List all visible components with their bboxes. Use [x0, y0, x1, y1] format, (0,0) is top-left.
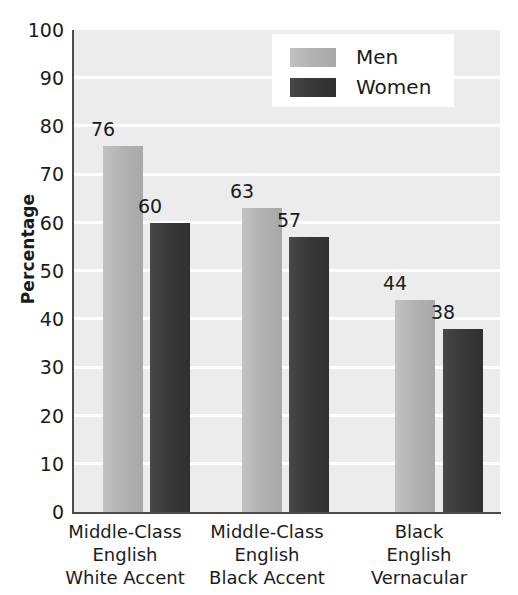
x-tick-label-group1: Middle-Class English White Accent: [50, 520, 200, 589]
bar-chart: Percentage 100 90 80 70 60 50 40 30 20 1…: [0, 0, 518, 595]
value-label-men-group3: 44: [375, 274, 415, 293]
value-label-women-group3: 38: [423, 303, 463, 322]
value-label-women-group2: 57: [269, 211, 309, 230]
y-tick-label-30: 30: [0, 358, 64, 377]
x-tick-label-group3: Black English Vernacular: [344, 520, 494, 589]
x-tick-label-group2: Middle-Class English Black Accent: [192, 520, 342, 589]
bar-women-group3: [443, 329, 483, 512]
y-tick-label-20: 20: [0, 407, 64, 426]
y-tick-label-70: 70: [0, 165, 64, 184]
bar-women-group1: [150, 223, 190, 512]
y-tick-label-50: 50: [0, 262, 64, 281]
legend-item-women: Women: [290, 73, 454, 101]
bar-men-group3: [395, 300, 435, 512]
legend-label-men: Men: [356, 47, 398, 67]
value-label-men-group2: 63: [222, 182, 262, 201]
legend-swatch-men-icon: [290, 48, 336, 67]
legend-item-men: Men: [290, 43, 454, 71]
y-tick-label-60: 60: [0, 214, 64, 233]
value-label-men-group1: 76: [83, 120, 123, 139]
y-tick-label-100: 100: [0, 21, 64, 40]
bar-women-group2: [289, 237, 329, 512]
legend-swatch-women-icon: [290, 78, 336, 97]
y-tick-label-10: 10: [0, 455, 64, 474]
y-axis-line: [72, 30, 74, 514]
x-axis-line: [72, 512, 501, 514]
legend-label-women: Women: [356, 77, 431, 97]
bar-men-group2: [242, 208, 282, 512]
legend: Men Women: [272, 34, 454, 107]
y-tick-label-40: 40: [0, 310, 64, 329]
gridline-80: [73, 124, 500, 127]
value-label-women-group1: 60: [130, 197, 170, 216]
y-tick-label-80: 80: [0, 117, 64, 136]
y-tick-label-90: 90: [0, 69, 64, 88]
